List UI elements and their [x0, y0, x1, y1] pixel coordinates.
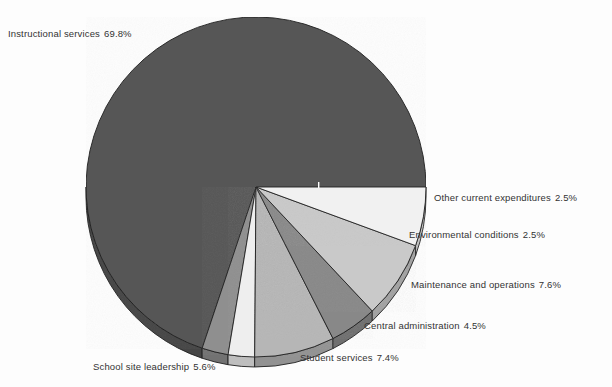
- pie-slices-group: Instructional services 69.8%Other curren…: [86, 17, 426, 357]
- slice-label-percent: 5.6%: [193, 361, 215, 372]
- slice-label-text: Central administration: [364, 320, 460, 331]
- slice-label-environmental-conditions: Environmental conditions2.5%: [409, 229, 545, 241]
- slice-label-text: Student services: [300, 352, 373, 363]
- slice-label-percent: 2.5%: [523, 229, 545, 240]
- slice-label-percent: 69.8%: [104, 28, 132, 39]
- slice-label-percent: 7.4%: [377, 352, 399, 363]
- slice-label-text: School site leadership: [93, 361, 189, 372]
- slice-label-other-current-expenditures: Other current expenditures2.5%: [434, 192, 577, 204]
- pie-tick-marker-group: [318, 182, 319, 188]
- slice-label-percent: 2.5%: [555, 192, 577, 203]
- pie-chart: Instructional services 69.8%Other curren…: [0, 0, 612, 387]
- slice-label-text: Other current expenditures: [434, 192, 551, 203]
- slice-label-text: Environmental conditions: [409, 229, 519, 240]
- slice-label-maintenance-and-operations: Maintenance and operations7.6%: [411, 279, 561, 291]
- slice-label-instructional-services: Instructional services69.8%: [8, 28, 132, 40]
- slice-label-school-site-leadership: School site leadership5.6%: [93, 361, 216, 373]
- pie-boundary-tick-icon: [318, 182, 319, 188]
- slice-label-student-services: Student services7.4%: [300, 352, 399, 364]
- slice-label-central-administration: Central administration4.5%: [364, 320, 486, 332]
- slice-label-percent: 7.6%: [539, 279, 561, 290]
- slice-label-text: Instructional services: [8, 28, 100, 39]
- slice-label-text: Maintenance and operations: [411, 279, 535, 290]
- slice-label-percent: 4.5%: [464, 320, 486, 331]
